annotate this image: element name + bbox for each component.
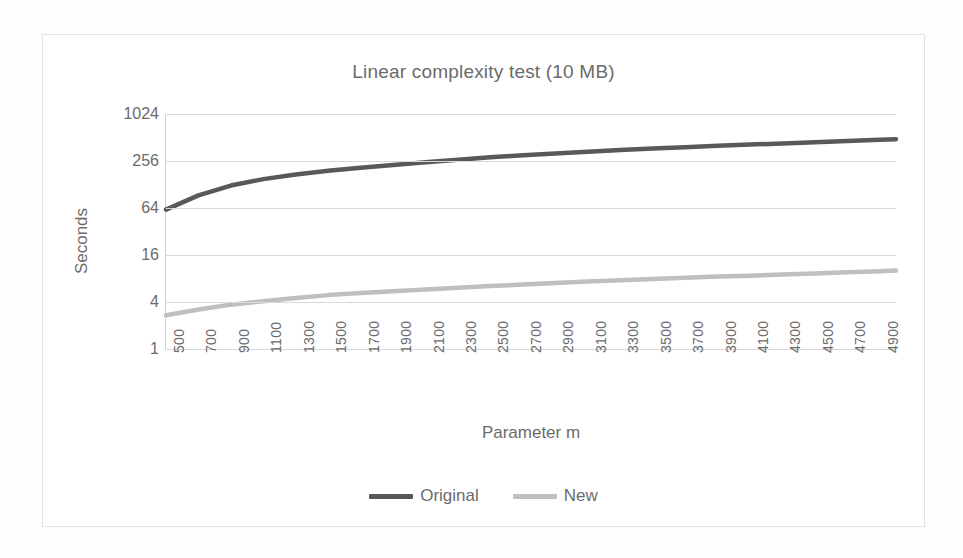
gridline [166,302,896,303]
plot-area [166,114,896,349]
legend-item-new[interactable]: New [513,486,598,506]
x-tick-label: 700 [203,329,219,353]
x-tick-label: 2500 [495,321,511,353]
x-tick-label: 4900 [885,321,901,353]
chart-legend: OriginalNew [43,486,924,506]
x-tick-label: 1100 [268,322,284,353]
legend-swatch-icon [513,494,557,499]
y-tick-label: 16 [89,246,159,264]
x-tick-label: 3300 [625,321,641,353]
x-tick-label: 3500 [658,321,674,353]
gridline [166,114,896,115]
x-tick-label: 4700 [852,321,868,353]
series-line-new [166,271,896,316]
legend-swatch-icon [369,494,413,499]
x-tick-label: 1300 [301,321,317,353]
x-tick-label: 3700 [690,321,706,353]
x-tick-label: 2900 [560,321,576,353]
x-tick-label: 4500 [820,321,836,353]
legend-label: Original [420,486,479,506]
x-tick-label: 2300 [463,321,479,353]
series-lines [166,114,896,349]
x-tick-label: 4300 [787,321,803,353]
x-tick-label: 2100 [431,321,447,353]
chart-title: Linear complexity test (10 MB) [43,61,924,83]
x-tick-label: 3100 [593,321,609,353]
y-tick-label: 256 [89,152,159,170]
x-tick-label: 1700 [366,321,382,353]
x-tick-label: 2700 [528,321,544,353]
y-tick-label: 4 [89,293,159,311]
y-axis-tick-labels: 1024256641641 [83,114,159,350]
x-tick-label: 500 [171,329,187,353]
x-tick-label: 3900 [723,321,739,353]
x-axis-title: Parameter m [166,423,896,443]
y-tick-label: 1 [89,340,159,358]
gridline [166,161,896,162]
x-tick-label: 4100 [755,321,771,353]
gridline [166,255,896,256]
y-tick-label: 64 [89,199,159,217]
legend-label: New [564,486,598,506]
gridline [166,208,896,209]
chart-container: Linear complexity test (10 MB) Seconds 1… [42,34,925,527]
y-tick-label: 1024 [89,105,159,123]
series-line-original [166,139,896,209]
x-axis-tick-labels: 5007009001100130015001700190021002300250… [166,353,896,415]
x-tick-label: 900 [236,329,252,353]
x-tick-label: 1500 [333,321,349,353]
x-tick-label: 1900 [398,321,414,353]
legend-item-original[interactable]: Original [369,486,479,506]
